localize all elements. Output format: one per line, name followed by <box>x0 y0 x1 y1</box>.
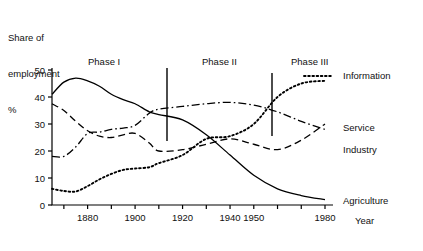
y-tick-label-50: 50 <box>34 65 45 76</box>
y-tick-label-40: 40 <box>34 92 45 103</box>
y-tick-label-10: 10 <box>34 173 45 184</box>
phase-label-3: Phase III <box>291 56 329 68</box>
x-tick-label-1950: 1950 <box>243 212 264 223</box>
x-axis-title: Year <box>355 215 374 227</box>
legend-label-agriculture: Agriculture <box>343 195 388 207</box>
chart-figure: Share of employment % 010203040501880190… <box>0 0 423 251</box>
phase-label-2: Phase II <box>202 56 237 68</box>
series-line-industry <box>52 104 325 152</box>
y-tick-label-0: 0 <box>40 200 45 211</box>
series-line-information <box>52 81 325 192</box>
x-tick-label-1980: 1980 <box>314 212 335 223</box>
x-tick-label-1880: 1880 <box>77 212 98 223</box>
series-line-agriculture <box>52 78 325 200</box>
legend-label-information: Information <box>343 70 391 82</box>
x-tick-label-1920: 1920 <box>172 212 193 223</box>
x-tick-label-1900: 1900 <box>125 212 146 223</box>
legend-label-industry: Industry <box>343 144 377 156</box>
y-tick-label-30: 30 <box>34 119 45 130</box>
y-tick-label-20: 20 <box>34 146 45 157</box>
x-tick-label-1940: 1940 <box>219 212 240 223</box>
series-line-service <box>52 102 325 157</box>
phase-label-1: Phase I <box>88 56 120 68</box>
legend-label-service: Service <box>343 122 375 134</box>
